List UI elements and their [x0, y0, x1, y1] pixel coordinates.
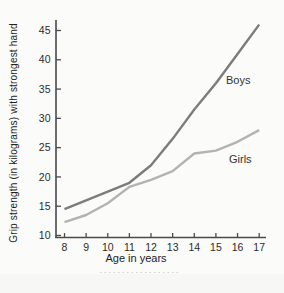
- x-tick-label: 11: [124, 241, 135, 253]
- girls-line: [65, 130, 260, 222]
- x-axis-title: Age in years: [105, 252, 167, 264]
- x-tick-label: 8: [62, 241, 68, 253]
- x-tick-label: 15: [210, 241, 222, 253]
- boys-line: [65, 25, 260, 209]
- x-tick-label: 12: [145, 241, 157, 253]
- girls-series-label: Girls: [229, 153, 252, 165]
- x-tick-label: 9: [83, 241, 89, 253]
- y-axis-title: Grip strength (in kilograms) with strong…: [8, 23, 19, 243]
- y-tick-label: 40: [39, 53, 51, 65]
- y-tick-label: 10: [39, 229, 51, 241]
- y-tick-label: 25: [39, 141, 51, 153]
- y-tick-label: 35: [39, 83, 51, 95]
- chart-canvas: 1015202530354045891011121314151617 Grip …: [0, 0, 284, 293]
- y-tick-label: 20: [39, 171, 51, 183]
- x-tick-label: 17: [253, 241, 265, 253]
- x-tick-label: 14: [188, 241, 200, 253]
- x-tick-label: 13: [167, 241, 179, 253]
- y-tick-label: 15: [39, 200, 51, 212]
- x-tick-label: 16: [232, 241, 244, 253]
- scan-band: [0, 274, 284, 293]
- plot-dynamic-layer: 1015202530354045891011121314151617: [39, 20, 266, 253]
- boys-series-label: Boys: [226, 74, 251, 86]
- y-tick-label: 30: [39, 112, 51, 124]
- y-tick-label: 45: [39, 24, 51, 36]
- grip-strength-chart: 1015202530354045891011121314151617 Grip …: [0, 0, 284, 293]
- x-tick-label: 10: [102, 241, 114, 253]
